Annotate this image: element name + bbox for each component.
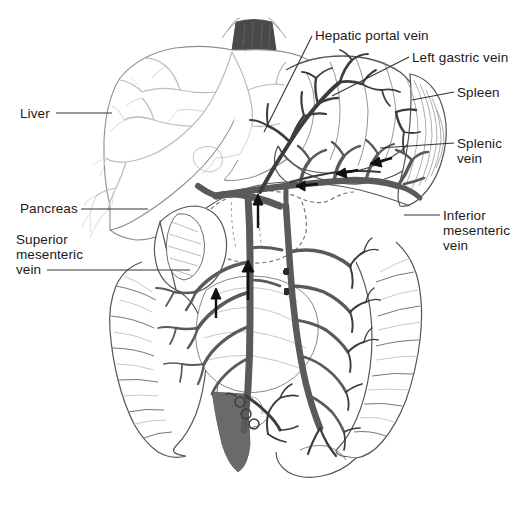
label-imv-line3: vein bbox=[443, 238, 510, 253]
label-smv-line3: vein bbox=[16, 262, 83, 277]
label-imv-line1: Inferior bbox=[443, 208, 510, 223]
label-imv-line2: mesenteric bbox=[443, 223, 510, 238]
label-spleen: Spleen bbox=[457, 85, 500, 100]
label-superior-mesenteric-vein: Superior mesenteric vein bbox=[16, 232, 83, 277]
label-splenic-line2: vein bbox=[457, 151, 502, 166]
label-hepatic-portal-vein: Hepatic portal vein bbox=[315, 28, 429, 43]
label-smv-line1: Superior bbox=[16, 232, 83, 247]
anatomical-figure: Liver Pancreas Superior mesenteric vein … bbox=[0, 0, 530, 518]
label-splenic-line1: Splenic bbox=[457, 136, 502, 151]
label-smv-line2: mesenteric bbox=[16, 247, 83, 262]
label-inferior-mesenteric-vein: Inferior mesenteric vein bbox=[443, 208, 510, 253]
label-liver: Liver bbox=[20, 106, 50, 121]
label-pancreas: Pancreas bbox=[20, 201, 78, 216]
label-left-gastric-vein: Left gastric vein bbox=[412, 50, 508, 65]
label-splenic-vein: Splenic vein bbox=[457, 136, 502, 166]
